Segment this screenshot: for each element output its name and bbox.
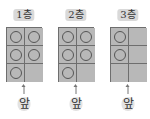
grid-cell — [129, 46, 147, 64]
grid-cell — [59, 64, 77, 82]
floor-label: 2층 — [65, 9, 86, 21]
grid-cell — [111, 46, 129, 64]
up-arrow-icon — [128, 86, 129, 94]
circle-icon — [114, 31, 126, 43]
circle-icon — [62, 31, 74, 43]
up-arrow-icon — [24, 86, 25, 94]
floor-panel-3: 3층 앞 — [108, 0, 148, 119]
grid-cell — [77, 46, 95, 64]
grid-cell — [7, 64, 25, 82]
circle-icon — [80, 49, 92, 61]
floor-panel-1: 1층 앞 — [4, 0, 44, 119]
floor-panel-2: 2층 앞 — [56, 0, 96, 119]
front-label: 앞 — [18, 97, 31, 111]
grid-cell — [7, 28, 25, 46]
floor-label: 1층 — [13, 9, 34, 21]
grid-cell — [111, 28, 129, 46]
circle-icon — [62, 49, 74, 61]
grid-cell — [77, 64, 95, 82]
front-label: 앞 — [122, 97, 135, 111]
circle-icon — [80, 31, 92, 43]
front-label: 앞 — [70, 97, 83, 111]
grid-cell — [25, 28, 43, 46]
floor-label: 3층 — [117, 9, 138, 21]
floor-grid — [110, 27, 146, 82]
grid-cell — [59, 46, 77, 64]
up-arrow-icon — [76, 86, 77, 94]
grid-cell — [77, 28, 95, 46]
circle-icon — [114, 49, 126, 61]
grid-cell — [129, 28, 147, 46]
grid-cell — [59, 28, 77, 46]
floor-grid — [58, 27, 94, 82]
circle-icon — [10, 31, 22, 43]
grid-cell — [111, 64, 129, 82]
circle-icon — [10, 67, 22, 79]
floor-grid — [6, 27, 42, 82]
circle-icon — [28, 31, 40, 43]
grid-cell — [25, 64, 43, 82]
grid-cell — [7, 46, 25, 64]
grid-cell — [129, 64, 147, 82]
circle-icon — [62, 67, 74, 79]
circle-icon — [28, 49, 40, 61]
circle-icon — [10, 49, 22, 61]
grid-cell — [25, 46, 43, 64]
